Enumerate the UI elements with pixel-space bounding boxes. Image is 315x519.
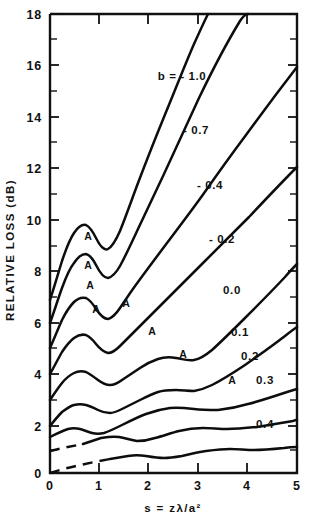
annotation-marker-a: A [148, 325, 156, 337]
curve-label-b-0.2: 0.2 [241, 350, 259, 362]
y-tick-label: 4 [34, 368, 42, 382]
curve-label-b-minus-0.4: - 0.4 [197, 179, 223, 191]
annotation-marker-a: A [84, 230, 92, 242]
x-tick-label: 5 [293, 479, 301, 493]
x-axis-ticks-top [99, 14, 247, 24]
y-axis-title: RELATIVE LOSS (dB) [4, 179, 16, 321]
curve-label-b-minus-0.2: - 0.2 [209, 233, 235, 245]
relative-loss-chart: 18 16 14 12 10 8 6 4 2 0 0 1 2 3 4 5 REL… [0, 0, 315, 519]
y-tick-label: 14 [26, 111, 42, 125]
curve-b-0.4 [110, 447, 297, 459]
y-tick-label: 0 [34, 467, 42, 481]
curve-b-minus-0.4 [50, 67, 297, 348]
y-tick-label: 8 [34, 265, 42, 279]
annotation-marker-a: A [92, 303, 100, 315]
curve-label-b-0.4: 0.4 [256, 418, 274, 430]
annotation-marker-a: A [228, 374, 236, 386]
x-tick-label: 1 [95, 479, 103, 493]
curve-label-b-0.0: 0.0 [223, 284, 241, 296]
curve-label-b-0.3: 0.3 [256, 374, 274, 386]
y-tick-labels: 18 16 14 12 10 8 6 4 2 0 [26, 8, 42, 481]
curve-b-minus-0.7 [50, 14, 248, 323]
annotation-marker-a: A [179, 348, 187, 360]
curve-b-0.4-dashed-start [50, 459, 110, 473]
curve-label-b-minus-1.0: b = - 1.0 [158, 70, 207, 82]
x-tick-label: 2 [144, 479, 152, 493]
x-axis-title: s = zλ/a² [144, 502, 202, 514]
annotation-marker-a: A [122, 297, 130, 309]
curve-label-b-0.1: 0.1 [231, 326, 249, 338]
annotation-marker-a: A [84, 259, 92, 271]
y-tick-label: 10 [26, 214, 42, 228]
annotation-marker-a: A [86, 279, 94, 291]
curve-b-0.3-dashed-start [50, 444, 83, 451]
x-tick-label: 4 [243, 479, 251, 493]
y-tick-label: 18 [26, 8, 42, 22]
x-axis-ticks [99, 463, 247, 473]
curve-b-minus-1.0 [50, 14, 208, 300]
curve-label-b-minus-0.7: - 0.7 [183, 124, 209, 136]
curves-group [50, 14, 297, 473]
y-tick-label: 2 [34, 420, 42, 434]
x-tick-label: 3 [194, 479, 202, 493]
y-tick-label: 6 [34, 317, 42, 331]
y-tick-label: 12 [26, 162, 42, 176]
x-tick-label: 0 [46, 479, 54, 493]
x-tick-labels: 0 1 2 3 4 5 [46, 479, 301, 493]
y-axis-ticks [50, 14, 59, 473]
figure-root: 18 16 14 12 10 8 6 4 2 0 0 1 2 3 4 5 REL… [0, 0, 315, 519]
y-tick-label: 16 [26, 59, 42, 73]
